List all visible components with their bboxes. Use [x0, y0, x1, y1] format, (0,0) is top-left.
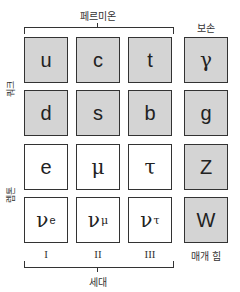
particle-tau-neutrino: ντ	[128, 197, 172, 243]
particle-electron: e	[24, 144, 68, 190]
symbol: μ	[92, 155, 105, 179]
generation-3-label: III	[128, 248, 172, 260]
particle-up-quark: u	[24, 37, 68, 83]
generations-brace	[24, 261, 174, 268]
quarks-label: 쿼크	[4, 81, 17, 97]
particle-electron-neutrino: νe	[24, 197, 68, 243]
generation-1-label: I	[24, 248, 68, 260]
particle-strange-quark: s	[76, 90, 120, 136]
particle-photon: γ	[184, 37, 228, 83]
particle-down-quark: d	[24, 90, 68, 136]
particle-bottom-quark: b	[128, 90, 172, 136]
symbol: ν	[88, 208, 100, 232]
symbol: u	[40, 49, 51, 72]
generations-label: 세대	[70, 274, 126, 289]
leptons-label: 렙톤	[4, 187, 17, 203]
fermions-brace	[24, 27, 174, 34]
particle-top-quark: t	[128, 37, 172, 83]
particle-tau: τ	[128, 144, 172, 190]
symbol: c	[93, 49, 103, 72]
bosons-label: 보손	[184, 20, 228, 35]
particle-gluon: g	[184, 90, 228, 136]
symbol: τ	[144, 155, 155, 179]
symbol: d	[40, 102, 51, 125]
symbol: e	[40, 156, 51, 179]
fermions-label: 페르미온	[60, 8, 136, 23]
symbol: b	[144, 102, 155, 125]
symbol: g	[200, 102, 211, 125]
symbol: W	[197, 209, 216, 232]
symbol: t	[147, 49, 153, 72]
generations-brace-tick	[97, 267, 98, 272]
symbol: Z	[200, 156, 212, 179]
subscript: e	[50, 214, 56, 226]
symbol: s	[93, 102, 103, 125]
subscript: τ	[154, 214, 160, 227]
particle-z-boson: Z	[184, 144, 228, 190]
symbol: γ	[200, 48, 212, 72]
particle-muon-neutrino: νμ	[76, 197, 120, 243]
symbol: ν	[36, 208, 48, 232]
particle-charm-quark: c	[76, 37, 120, 83]
symbol: ν	[140, 208, 152, 232]
particle-w-boson: W	[184, 197, 228, 243]
generation-2-label: II	[76, 248, 120, 260]
fermions-brace-tick	[97, 23, 98, 28]
subscript: μ	[101, 214, 108, 227]
force-carriers-label: 매개 힘	[180, 248, 232, 263]
particle-muon: μ	[76, 144, 120, 190]
